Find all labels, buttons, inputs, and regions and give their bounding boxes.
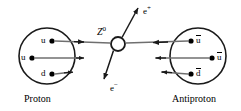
proton-d-bot-arrowhead — [64, 72, 73, 73]
feynman-style-collision-diagram: u u d u u d Z0 e+ e− Proton Antiproton — [0, 0, 241, 111]
proton-quark-dot-u-top — [49, 38, 54, 43]
antiproton-dbar-bot-arrowhead — [162, 72, 172, 73]
electron-charge-superscript: − — [114, 81, 118, 89]
overline-u-mid: u — [217, 53, 222, 62]
antiproton-quark-label-ubar-top: u — [196, 36, 201, 45]
electron-label: e− — [110, 82, 118, 93]
proton-quark-label-u-mid: u — [21, 53, 26, 62]
antiproton-quark-dot-ubar-mid — [209, 55, 214, 60]
z-boson-vertex-circle — [111, 37, 125, 51]
overline-u-top: u — [196, 36, 201, 45]
proton-quark-dot-d-bot — [49, 71, 54, 76]
proton-quark-dot-u-mid — [29, 55, 34, 60]
z-boson-charge-superscript: 0 — [103, 25, 107, 33]
electron-track — [104, 51, 114, 80]
proton-quark-label-u-top: u — [41, 36, 46, 45]
proton-caption: Proton — [24, 94, 51, 104]
proton-quark-label-d-bot: d — [41, 69, 46, 78]
z-boson-label: Z0 — [97, 26, 106, 37]
positron-charge-superscript: + — [147, 4, 151, 12]
antiproton-ubar-top-arrowhead — [153, 42, 168, 43]
antiproton-caption: Antiproton — [172, 94, 216, 104]
antiproton-quark-label-dbar-bot: d — [196, 69, 201, 78]
antiproton-quark-label-ubar-mid: u — [217, 53, 222, 62]
antiproton-quark-dot-dbar-bot — [188, 71, 193, 76]
proton-circle — [19, 28, 75, 84]
positron-track — [122, 8, 138, 38]
positron-label: e+ — [143, 5, 151, 16]
antiproton-quark-dot-ubar-top — [188, 38, 193, 43]
overline-d-bot: d — [196, 69, 201, 78]
